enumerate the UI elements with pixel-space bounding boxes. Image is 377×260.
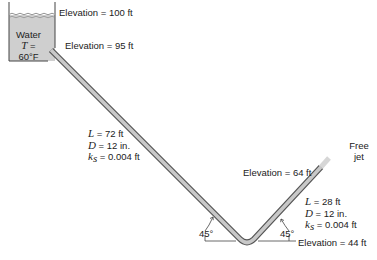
free-jet-label: Free jet	[347, 140, 371, 162]
outlet-elevation-label-64: Elevation = 64 ft	[243, 167, 311, 178]
temperature-value: 60°F	[9, 51, 48, 62]
pipe2-diameter: D = 12 in.	[305, 208, 357, 220]
free-jet	[321, 158, 329, 167]
angle-label-left: 45°	[199, 228, 213, 239]
angle-label-right: 45°	[280, 228, 294, 239]
pipe2-roughness: ks = 0.004 ft	[305, 219, 357, 233]
surface-elevation-label: Elevation = 100 ft	[59, 7, 133, 18]
fluid-label: Water	[9, 29, 48, 40]
pipe1-diameter: D = 12 in.	[88, 140, 140, 152]
pipe1-roughness: ks = 0.004 ft	[88, 151, 140, 165]
bend-elevation-label: Elevation = 44 ft	[298, 237, 366, 248]
tank-label: Water T = 60°F	[9, 29, 48, 62]
pipe1-properties: L = 72 ft D = 12 in. ks = 0.004 ft	[88, 128, 140, 165]
temperature-symbol-line: T =	[9, 40, 48, 51]
outlet-elevation-label: Elevation = 95 ft	[65, 40, 133, 51]
pipe2-properties: L = 28 ft D = 12 in. ks = 0.004 ft	[305, 196, 357, 233]
